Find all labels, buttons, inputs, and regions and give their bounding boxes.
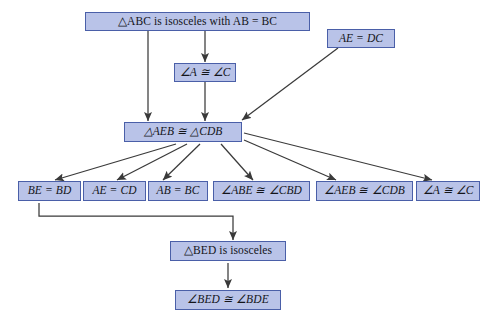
node-angle-a-congruent-angle-c-top-label: ∠A ≅ ∠C bbox=[180, 67, 231, 79]
edge-triangles-to-angle-a-c-bottom bbox=[244, 133, 432, 180]
node-ae-equals-cd: AE = CD bbox=[83, 181, 146, 201]
edge-triangles-to-ae-cd bbox=[117, 144, 187, 180]
node-angle-a-congruent-angle-c-bottom-label: ∠A ≅ ∠C bbox=[423, 185, 474, 197]
node-triangle-aeb-congruent-cdb: △AEB ≅ △CDB bbox=[124, 122, 242, 142]
edge-triangles-to-ab-bc bbox=[163, 144, 200, 180]
edge-be-bd-to-bed-isosceles bbox=[39, 203, 233, 240]
node-angle-a-congruent-angle-c-top: ∠A ≅ ∠C bbox=[174, 63, 236, 82]
node-given-ae-equals-dc: AE = DC bbox=[327, 29, 395, 48]
node-bed-isosceles: △BED is isosceles bbox=[170, 241, 286, 261]
node-angle-aeb-congruent-cdb-label: ∠AEB ≅ ∠CDB bbox=[324, 185, 405, 197]
node-ae-equals-cd-label: AE = CD bbox=[92, 185, 136, 197]
node-be-equals-bd-label: BE = BD bbox=[28, 185, 72, 197]
node-ab-equals-bc: AB = BC bbox=[148, 181, 208, 201]
node-ab-equals-bc-label: AB = BC bbox=[157, 185, 200, 197]
edge-triangles-to-angle-aeb-cdb bbox=[244, 140, 336, 180]
flowchart-diagram: △ABC is isosceles with AB = BC ∠A ≅ ∠C A… bbox=[0, 0, 501, 331]
edge-triangles-to-angle-abe-cbd bbox=[221, 144, 253, 180]
node-bed-isosceles-label: △BED is isosceles bbox=[184, 245, 272, 257]
node-given-abc: △ABC is isosceles with AB = BC bbox=[85, 12, 310, 31]
node-given-ae-equals-dc-label: AE = DC bbox=[339, 33, 383, 45]
node-be-equals-bd: BE = BD bbox=[18, 181, 81, 201]
flowchart-edges bbox=[0, 0, 501, 331]
node-angle-a-congruent-angle-c-bottom: ∠A ≅ ∠C bbox=[416, 181, 480, 201]
node-triangle-aeb-congruent-cdb-label: △AEB ≅ △CDB bbox=[144, 126, 223, 138]
node-angle-bed-congruent-bde-label: ∠BED ≅ ∠BDE bbox=[187, 294, 269, 306]
node-given-abc-label: △ABC is isosceles with AB = BC bbox=[118, 16, 277, 28]
node-angle-abe-congruent-cbd-label: ∠ABE ≅ ∠CBD bbox=[221, 185, 302, 197]
node-angle-aeb-congruent-cdb: ∠AEB ≅ ∠CDB bbox=[316, 181, 413, 201]
node-angle-abe-congruent-cbd: ∠ABE ≅ ∠CBD bbox=[213, 181, 310, 201]
edge-given-ae-dc-to-triangles bbox=[242, 48, 338, 120]
node-angle-bed-congruent-bde: ∠BED ≅ ∠BDE bbox=[175, 290, 281, 310]
edge-triangles-to-be-bd bbox=[55, 144, 176, 180]
